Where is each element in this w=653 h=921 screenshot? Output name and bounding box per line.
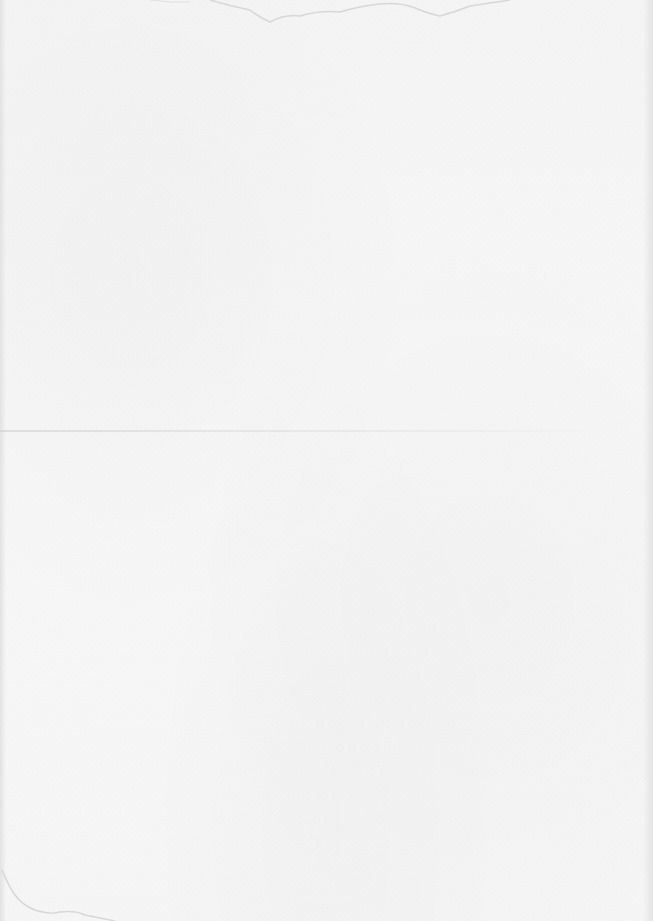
paper-texture (0, 0, 653, 921)
left-page-edge (0, 0, 6, 921)
horizontal-fold-crease (0, 430, 620, 432)
bottom-left-corner-stain (0, 860, 140, 921)
blank-paper-page (0, 0, 653, 921)
top-water-stain (150, 0, 550, 40)
right-page-edge (643, 0, 653, 921)
